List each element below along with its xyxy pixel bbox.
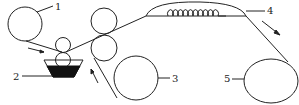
coating-roller-top xyxy=(56,38,71,53)
drying-hood xyxy=(146,2,246,16)
arrow-head-4 xyxy=(274,30,280,35)
heating-coil-icon xyxy=(168,10,227,16)
web-path-1 xyxy=(26,41,62,52)
unwind-roll-3 xyxy=(114,56,158,100)
unwind-roll-1 xyxy=(8,7,42,41)
label-4: 4 xyxy=(267,5,273,16)
web-path-4 xyxy=(246,16,288,62)
press-roller-bottom xyxy=(91,35,117,61)
label-1: 1 xyxy=(55,1,61,12)
rewind-roll-5 xyxy=(244,59,298,103)
label-2: 2 xyxy=(13,71,19,82)
label-5: 5 xyxy=(224,73,230,84)
coating-liquid xyxy=(47,66,80,77)
label-3: 3 xyxy=(172,73,178,84)
leader-line-1 xyxy=(37,6,53,12)
coating-process-diagram: 1 2 3 4 5 xyxy=(0,0,299,105)
press-roller-top xyxy=(91,8,117,34)
arrow-head-1 xyxy=(40,50,44,53)
